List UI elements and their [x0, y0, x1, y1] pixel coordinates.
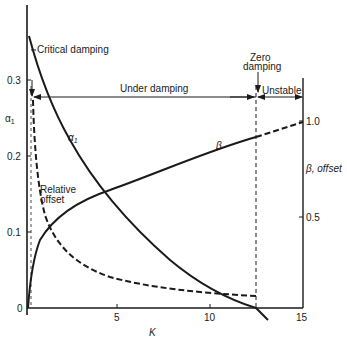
x-tick-10: 10: [204, 312, 216, 323]
unstable-label: Unstable: [262, 85, 302, 96]
x-tick-15: 15: [296, 312, 308, 323]
critical-damping-label: Critical damping: [37, 44, 109, 55]
right-axis-label: β, offset: [305, 163, 343, 174]
right-tick-1.0: 1.0: [306, 116, 320, 127]
y-tick-0.2: 0.2: [7, 151, 21, 162]
beta-curve: [28, 137, 256, 308]
y-tick-0.3: 0.3: [7, 75, 21, 86]
relative-offset-curve: [33, 100, 256, 296]
zero-damping-label-2: damping: [243, 61, 281, 72]
x-axis-label: K: [149, 327, 157, 338]
under-damping-label: Under damping: [120, 83, 188, 94]
left-axis-label: α1: [5, 113, 15, 125]
beta-curve-label: β: [215, 140, 222, 151]
x-tick-5: 5: [114, 312, 120, 323]
beta-unstable-curve: [256, 122, 303, 137]
alpha1-curve-label: α1: [68, 132, 78, 144]
y-tick-0.1: 0.1: [7, 227, 21, 238]
chart: 0.3 0.2 0.1 0 5 10 15 1.0 0.5 α1 K β, of…: [0, 0, 347, 340]
alpha1-curve: [29, 36, 268, 320]
right-tick-0.5: 0.5: [306, 212, 320, 223]
y-tick-0: 0: [17, 303, 23, 314]
relative-offset-label-2: offset: [40, 194, 64, 205]
